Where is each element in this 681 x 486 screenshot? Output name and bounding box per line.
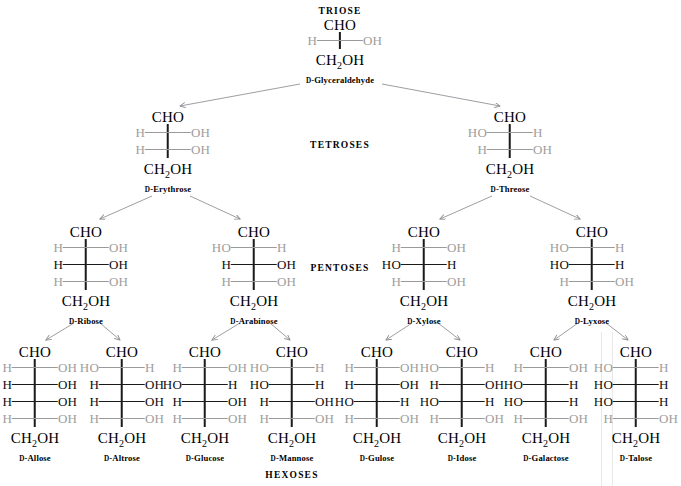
horizontal-bond: [523, 401, 569, 403]
substituent-right: H: [485, 359, 495, 376]
primary-alcohol-label: CH2OH: [268, 431, 317, 451]
aldehyde-group-label: CHO: [568, 225, 617, 239]
sugar-gulose: CHOHOHHOHHOHHOHCH2OHD-Gulose: [353, 345, 402, 463]
horizontal-bond: [354, 367, 400, 369]
substituent-left: H: [172, 393, 182, 410]
substituent-left: HO: [504, 376, 523, 393]
sugar-altrose: CHOHOHHOHHOHHOHCH2OHD-Altrose: [98, 345, 147, 463]
horizontal-bond: [439, 418, 485, 420]
substituent-left: H: [259, 410, 269, 427]
substituent-left: H: [53, 273, 63, 290]
sugar-name-galactose: D-Galactose: [522, 453, 571, 463]
sugar-name-lyxose: D-Lyxose: [568, 316, 617, 326]
substituent-left: H: [2, 376, 12, 393]
sugar-galactose: CHOHOHHOHHOHHOHCH2OHD-Galactose: [522, 345, 571, 463]
substituent-left: HO: [382, 256, 401, 273]
d-configuration-prefix: D: [523, 455, 528, 463]
substituent-right: OH: [447, 273, 466, 290]
sugar-name-glyceraldehyde: D-Glyceraldehyde: [306, 75, 374, 85]
substituent-left: H: [172, 359, 182, 376]
substituent-right: OH: [400, 359, 419, 376]
primary-alcohol-label: CH2OH: [612, 431, 661, 451]
aldehyde-group-label: CHO: [353, 345, 402, 359]
substituent-left: H: [391, 273, 401, 290]
horizontal-bond: [99, 367, 145, 369]
primary-alcohol-label: CH2OH: [62, 294, 111, 314]
arrow-erythrose-to-ribose: [100, 196, 152, 219]
substituent-left: H: [53, 239, 63, 256]
substituent-left: HO: [250, 376, 269, 393]
primary-alcohol-label: CH2OH: [144, 162, 193, 182]
sugar-name-altrose: D-Altrose: [98, 453, 147, 463]
level-label-triose: TRIOSE: [318, 6, 361, 16]
d-configuration-prefix: D: [69, 318, 74, 326]
substituent-right: OH: [277, 273, 296, 290]
horizontal-bond: [317, 40, 363, 42]
horizontal-bond: [99, 401, 145, 403]
substituent-right: OH: [109, 239, 128, 256]
primary-alcohol-label: CH2OH: [568, 294, 617, 314]
substituent-right: H: [615, 256, 625, 273]
horizontal-bond: [439, 367, 485, 369]
horizontal-bond: [145, 149, 191, 151]
d-configuration-prefix: D: [448, 455, 453, 463]
sugar-lyxose: CHOHOHHOHHOHCH2OHD-Lyxose: [568, 225, 617, 326]
aldehyde-group-label: CHO: [144, 110, 193, 124]
sugar-name-talose: D-Talose: [612, 453, 661, 463]
substituent-right: H: [659, 359, 669, 376]
horizontal-bond: [439, 384, 485, 386]
arrow-threose-to-xylose: [440, 196, 492, 219]
sugar-name-threose: D-Threose: [486, 184, 535, 194]
aldehyde-group-label: CHO: [486, 110, 535, 124]
arrow-threose-to-lyxose: [530, 196, 580, 219]
primary-alcohol-label: CH2OH: [400, 294, 449, 314]
d-configuration-prefix: D: [491, 186, 496, 194]
substituent-left: H: [89, 410, 99, 427]
substituent-right: H: [315, 376, 325, 393]
substituent-left: H: [135, 124, 145, 141]
substituent-left: HO: [594, 393, 613, 410]
horizontal-bond: [269, 367, 315, 369]
d-configuration-prefix: D: [19, 455, 24, 463]
horizontal-bond: [613, 401, 659, 403]
aldehyde-group-label: CHO: [306, 18, 374, 32]
horizontal-bond: [401, 247, 447, 249]
sugar-ribose: CHOHOHHOHHOHCH2OHD-Ribose: [62, 225, 111, 326]
sugar-name-ribose: D-Ribose: [62, 316, 111, 326]
substituent-right: OH: [400, 410, 419, 427]
horizontal-bond: [12, 384, 58, 386]
substituent-left: H: [172, 410, 182, 427]
horizontal-bond: [231, 264, 277, 266]
substituent-right: H: [569, 393, 579, 410]
substituent-right: OH: [277, 256, 296, 273]
aldehyde-group-label: CHO: [230, 225, 279, 239]
substituent-right: H: [277, 239, 287, 256]
sugar-threose: CHOHOHHOHCH2OHD-Threose: [486, 110, 535, 194]
sugar-glucose: CHOHOHHOHHOHHOHCH2OHD-Glucose: [181, 345, 230, 463]
substituent-right: OH: [485, 376, 504, 393]
substituent-right: OH: [145, 410, 164, 427]
sugar-name-arabinose: D-Arabinose: [230, 316, 279, 326]
horizontal-bond: [269, 384, 315, 386]
substituent-right: OH: [109, 273, 128, 290]
substituent-right: OH: [447, 239, 466, 256]
carbon-backbone: [167, 124, 169, 158]
horizontal-bond: [231, 247, 277, 249]
carbon-backbone: [509, 124, 511, 158]
primary-alcohol-label: CH2OH: [181, 431, 230, 451]
substituent-left: H: [221, 273, 231, 290]
sugar-arabinose: CHOHOHHOHHOHCH2OHD-Arabinose: [230, 225, 279, 326]
substituent-left: HO: [212, 239, 231, 256]
horizontal-bond: [354, 384, 400, 386]
aldehyde-group-label: CHO: [181, 345, 230, 359]
substituent-right: H: [485, 393, 495, 410]
aldehyde-group-label: CHO: [438, 345, 487, 359]
aldose-family-tree-figure: TRIOSETETROSESPENTOSESHEXOSES CHOHOHCH2O…: [0, 0, 681, 486]
substituent-right: H: [228, 376, 238, 393]
horizontal-bond: [613, 367, 659, 369]
substituent-right: OH: [659, 410, 678, 427]
substituent-left: H: [391, 239, 401, 256]
substituent-right: OH: [363, 32, 382, 49]
d-configuration-prefix: D: [360, 455, 365, 463]
substituent-left: H: [221, 256, 231, 273]
